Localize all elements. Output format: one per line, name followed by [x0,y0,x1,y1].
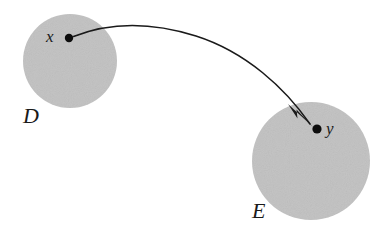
point-label-y: y [326,120,334,137]
figure-canvas [0,0,387,234]
set-label-D: D [23,105,39,127]
point-label-x: x [46,28,54,45]
set-mapping-figure: D E x y [0,0,387,234]
set-label-E: E [252,200,265,222]
set-disk-E [252,102,370,220]
point-dot-y [312,124,321,133]
point-dot-x [65,34,73,42]
